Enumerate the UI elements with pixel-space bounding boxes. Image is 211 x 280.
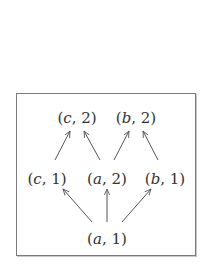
edge-arrow-a2-to-b2 bbox=[114, 131, 129, 160]
node-c1: (c, 1) bbox=[27, 170, 66, 188]
node-a2: (a, 2) bbox=[87, 170, 127, 188]
hasse-diagram: (c, 2)(b, 2)(c, 1)(a, 2)(b, 1)(a, 1) bbox=[0, 0, 211, 280]
edge-arrow-a2-to-c2 bbox=[84, 131, 100, 160]
node-a1: (a, 1) bbox=[87, 230, 127, 248]
node-b1: (b, 1) bbox=[145, 170, 185, 188]
node-b2: (b, 2) bbox=[116, 109, 156, 127]
edge-arrow-a1-to-c1 bbox=[63, 189, 92, 222]
nodes-group: (c, 2)(b, 2)(c, 1)(a, 2)(b, 1)(a, 1) bbox=[27, 109, 185, 248]
node-c2: (c, 2) bbox=[57, 109, 96, 127]
edge-arrow-a1-to-b1 bbox=[122, 189, 151, 222]
edge-arrow-c1-to-c2 bbox=[55, 131, 70, 160]
edge-arrow-b1-to-b2 bbox=[143, 131, 158, 160]
